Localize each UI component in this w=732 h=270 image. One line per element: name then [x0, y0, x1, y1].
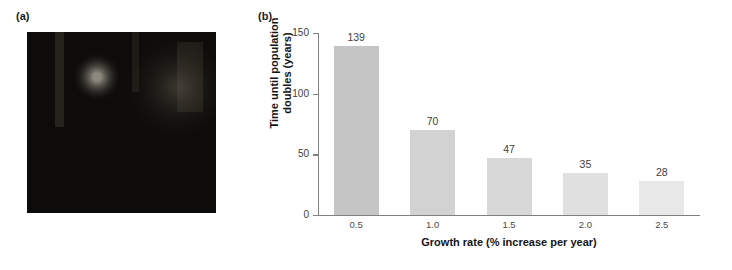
- bar-value-label: 70: [410, 115, 455, 127]
- bar-group[interactable]: 35: [563, 33, 608, 215]
- y-axis-tick-label: 50: [258, 148, 309, 159]
- x-axis-line: [318, 215, 700, 216]
- bar[interactable]: [334, 46, 379, 215]
- x-axis-tick-label: 1.5: [489, 219, 529, 230]
- bar-value-label: 35: [563, 158, 608, 170]
- y-axis-tick: [313, 215, 318, 216]
- bar-value-label: 139: [334, 31, 379, 43]
- noodle-chef-photo-canvas: [27, 32, 216, 213]
- bar-group[interactable]: 47: [487, 33, 532, 215]
- bar-value-label: 47: [487, 143, 532, 155]
- y-axis-title: Time until population doubles (years): [268, 0, 294, 158]
- x-axis-tick-label: 1.0: [413, 219, 453, 230]
- x-axis-title: Growth rate (% increase per year): [318, 236, 700, 248]
- bar-group[interactable]: 70: [410, 33, 455, 215]
- x-axis-tick-labels: 0.51.01.52.02.5: [318, 219, 700, 235]
- y-axis-title-line2: doubles (years): [281, 32, 293, 113]
- x-axis-tick-label: 0.5: [336, 219, 376, 230]
- y-axis-tick-label: 100: [258, 88, 309, 99]
- y-axis-tick-label: 0: [258, 209, 309, 220]
- panel-a-photograph: [27, 32, 216, 213]
- bar-value-label: 28: [639, 166, 684, 178]
- bar-group[interactable]: 139: [334, 33, 379, 215]
- bar[interactable]: [487, 158, 532, 215]
- bar-chart: Time until population doubles (years) 05…: [258, 0, 732, 270]
- bar[interactable]: [639, 181, 684, 215]
- panel-a-label: (a): [16, 10, 29, 22]
- x-axis-tick-label: 2.5: [642, 219, 682, 230]
- bar[interactable]: [563, 173, 608, 215]
- bar[interactable]: [410, 130, 455, 215]
- bar-group[interactable]: 28: [639, 33, 684, 215]
- bars-layer: 13970473528: [318, 33, 700, 215]
- x-axis-tick-label: 2.0: [565, 219, 605, 230]
- y-axis-tick-label: 150: [258, 27, 309, 38]
